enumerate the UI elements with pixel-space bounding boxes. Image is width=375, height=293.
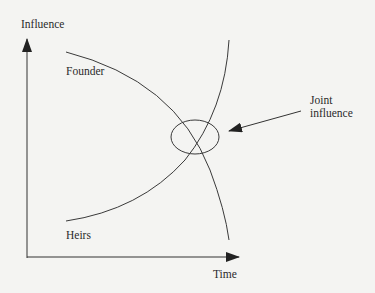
influence-diagram	[0, 0, 375, 293]
annotation-line1: Joint	[310, 94, 332, 107]
founder-curve	[66, 52, 229, 240]
annotation-arrow	[229, 111, 301, 131]
heirs-label: Heirs	[66, 229, 91, 242]
y-axis-label: Influence	[21, 18, 64, 31]
founder-label: Founder	[66, 65, 104, 78]
x-axis-label: Time	[213, 268, 237, 281]
joint-influence-ellipse	[171, 120, 219, 154]
annotation-line2: influence	[310, 107, 353, 120]
